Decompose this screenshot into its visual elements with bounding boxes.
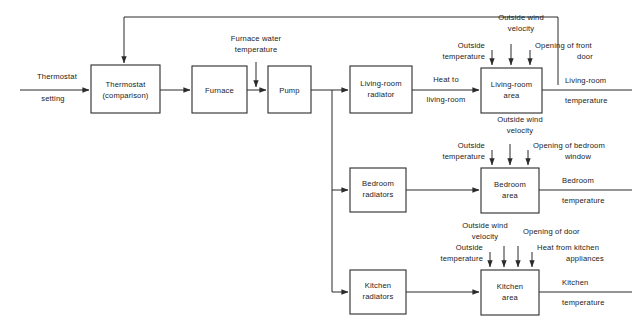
kt-wind-line1: Outside wind: [462, 221, 508, 230]
block-thermostat-line1: Thermostat: [106, 80, 147, 89]
kt-output-line1: Kitchen: [562, 278, 588, 287]
bedroom-output: Bedroom temperature: [539, 176, 632, 205]
diagram-canvas: Thermostat setting Thermostat (compariso…: [0, 0, 638, 331]
bd-outside-temp-line2: temperature: [442, 152, 485, 161]
input-label-line1: Thermostat: [37, 72, 78, 81]
furnace-water-label-line2: temperature: [235, 45, 278, 54]
kitchen-disturbance-labels: Outside temperature Outside wind velocit…: [440, 221, 604, 263]
living-room-disturbance-arrows: [492, 44, 530, 65]
kt-door-line1: Opening of door: [523, 227, 580, 236]
kt-appliances-line2: appliances: [566, 254, 604, 263]
block-kitchen-area-line2: area: [502, 293, 518, 302]
bedroom-disturbance-labels: Outside temperature Outside wind velocit…: [442, 115, 605, 161]
kitchen-disturbance-arrows: [490, 246, 532, 267]
block-living-room-area-line1: Living-room: [491, 80, 532, 89]
block-living-room-area[interactable]: Living-room area: [481, 68, 542, 113]
block-living-room-radiator-line2: radiator: [368, 90, 395, 99]
block-kitchen-radiators[interactable]: Kitchen radiators: [350, 270, 406, 314]
input-label-line2: setting: [41, 94, 64, 103]
block-bedroom-radiators-line1: Bedroom: [362, 179, 394, 188]
block-furnace-label: Furnace: [205, 86, 234, 95]
living-room-output: Living-room temperature: [542, 76, 632, 105]
block-living-room-radiator-line1: Living-room: [360, 79, 401, 88]
lr-outside-temp-line1: Outside: [458, 41, 485, 50]
bedroom-disturbance-arrows: [492, 144, 528, 165]
lr-wind-line2: velocity: [508, 24, 535, 33]
block-living-room-radiator[interactable]: Living-room radiator: [350, 66, 412, 113]
block-bedroom-area-line1: Bedroom: [494, 180, 526, 189]
block-thermostat[interactable]: Thermostat (comparison): [91, 65, 160, 113]
heat-to-label-line1: Heat to: [433, 75, 459, 84]
furnace-water-label-line1: Furnace water: [231, 34, 282, 43]
kt-outside-temp-line2: temperature: [440, 254, 483, 263]
bd-output-line2: temperature: [562, 196, 605, 205]
block-bedroom-radiators-line2: radiators: [363, 190, 394, 199]
block-bedroom-area-line2: area: [502, 191, 518, 200]
kt-appliances-line1: Heat from kitchen: [537, 243, 599, 252]
bd-window-line1: Opening of bedroom: [533, 141, 605, 150]
kt-outside-temp-line1: Outside: [456, 243, 483, 252]
living-room-disturbance-labels: Outside temperature Outside wind velocit…: [442, 13, 593, 61]
block-kitchen-radiators-line1: Kitchen: [365, 281, 391, 290]
bd-wind-line2: velocity: [507, 126, 534, 135]
lr-output-line1: Living-room: [565, 76, 606, 85]
block-furnace[interactable]: Furnace: [192, 66, 247, 113]
kt-wind-line2: velocity: [472, 232, 499, 241]
bd-output-line1: Bedroom: [562, 176, 594, 185]
input-signal-label: Thermostat setting: [37, 72, 78, 103]
block-kitchen-radiators-line2: radiators: [363, 292, 394, 301]
block-diagram: Thermostat setting Thermostat (compariso…: [0, 0, 638, 331]
kt-output-line2: temperature: [562, 298, 605, 307]
block-pump[interactable]: Pump: [268, 66, 311, 113]
lr-door-line1: Opening of front: [535, 41, 593, 50]
bd-outside-temp-line1: Outside: [458, 141, 485, 150]
block-thermostat-line2: (comparison): [102, 91, 148, 100]
block-living-room-area-line2: area: [504, 91, 520, 100]
lr-output-line2: temperature: [565, 96, 608, 105]
block-pump-label: Pump: [279, 86, 299, 95]
block-bedroom-area[interactable]: Bedroom area: [481, 168, 539, 213]
heat-to-label-line2: living-room: [427, 95, 466, 104]
block-bedroom-radiators[interactable]: Bedroom radiators: [350, 168, 406, 212]
kitchen-output: Kitchen temperature: [539, 278, 632, 307]
block-kitchen-area-line1: Kitchen: [497, 282, 523, 291]
bd-window-line2: window: [564, 152, 592, 161]
block-kitchen-area[interactable]: Kitchen area: [481, 270, 539, 315]
lr-door-line2: door: [577, 52, 593, 61]
pump-distribution-bus: [311, 90, 348, 292]
lr-wind-line1: Outside wind: [498, 13, 544, 22]
lr-outside-temp-line2: temperature: [442, 52, 485, 61]
bd-wind-line1: Outside wind: [497, 115, 543, 124]
